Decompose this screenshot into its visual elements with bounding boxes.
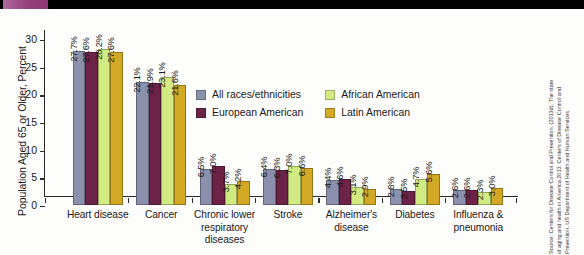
bar-value-label: 23.1%: [157, 62, 167, 87]
legend-label: Latin American: [341, 107, 410, 118]
y-tick-label: 30: [25, 33, 37, 45]
bar[interactable]: 27.6%: [85, 52, 98, 205]
bar[interactable]: 21.9%: [149, 83, 162, 204]
legend-swatch-icon: [196, 90, 206, 100]
bar-value-label: 7.0%: [284, 154, 294, 174]
legend-item[interactable]: African American: [325, 89, 420, 100]
bar-value-label: 2.9%: [360, 176, 370, 196]
bar[interactable]: 2.5%: [402, 191, 415, 205]
bar-value-label: 7.0%: [208, 154, 218, 174]
legend-swatch-icon: [325, 108, 335, 118]
legend-label: European American: [212, 107, 303, 118]
top-band-accent-block: [3, 0, 48, 9]
source-note-line: Source: Centers for Disease Control and …: [548, 64, 556, 254]
bar-value-label: 2.6%: [462, 178, 472, 198]
bar-value-label: 2.6%: [450, 178, 460, 198]
bar-value-label: 22.1%: [132, 68, 142, 93]
bar[interactable]: 3.0%: [491, 188, 504, 205]
y-tick-label: 25: [25, 61, 37, 73]
y-tick-mark: [40, 95, 45, 96]
bar-value-label: 27.6%: [106, 37, 116, 62]
legend-item[interactable]: European American: [196, 107, 303, 118]
bar-value-label: 27.7%: [69, 37, 79, 62]
source-note: Source: Centers for Disease Control and …: [548, 64, 571, 254]
x-tick-mark: [382, 198, 383, 203]
bar-value-label: 4.6%: [335, 167, 345, 187]
x-tick-mark: [516, 198, 517, 203]
y-tick-label: 5: [31, 171, 37, 183]
x-tick-mark: [192, 198, 193, 203]
x-tick-mark: [45, 198, 46, 203]
bar-group-bars: 6.4%6.3%7.0%6.6%: [263, 39, 313, 205]
bar-value-label: 28.2%: [94, 34, 104, 59]
bar-group-bars: 4.4%4.6%3.1%2.9%: [326, 39, 376, 205]
y-tick-mark: [40, 178, 45, 179]
bar-value-label: 2.3%: [475, 180, 485, 200]
bar-group-bars: 2.6%2.6%2.3%3.0%: [453, 39, 503, 205]
bar-value-label: 4.2%: [233, 169, 243, 189]
legend-item[interactable]: All races/ethnicities: [196, 89, 303, 100]
x-category-label-line: respiratory diseases: [181, 222, 267, 247]
x-tick-mark: [445, 198, 446, 203]
legend-label: African American: [341, 89, 420, 100]
bar-value-label: 6.4%: [259, 157, 269, 177]
bar-value-label: 3.7%: [221, 172, 231, 192]
legend-label: All races/ethnicities: [212, 89, 301, 100]
bar-value-label: 4.7%: [411, 166, 421, 186]
x-category-label-line: pneumonia: [435, 222, 521, 235]
bar-value-label: 21.6%: [170, 70, 180, 95]
plot-area: 051015202530 27.7%27.6%28.2%27.6%22.1%21…: [44, 30, 518, 206]
bar[interactable]: 21.6%: [174, 85, 187, 205]
y-tick-label: 15: [25, 116, 37, 128]
bar-group-bars: 27.7%27.6%28.2%27.6%: [73, 39, 123, 205]
bar[interactable]: 27.6%: [110, 52, 123, 205]
bar[interactable]: 4.7%: [415, 179, 428, 205]
y-axis-line: [44, 30, 45, 197]
bar-value-label: 3.0%: [487, 176, 497, 196]
bar[interactable]: 27.7%: [73, 51, 86, 204]
y-tick-label: 0: [31, 199, 37, 211]
bar[interactable]: 6.6%: [301, 168, 314, 205]
bar-group-bars: 6.5%7.0%3.7%4.2%: [200, 39, 250, 205]
x-tick-mark: [318, 198, 319, 203]
y-tick-label: 10: [25, 144, 37, 156]
y-tick-mark: [40, 123, 45, 124]
bar[interactable]: 22.1%: [136, 82, 149, 204]
x-tick-mark: [128, 198, 129, 203]
x-category-label-line: disease: [308, 222, 394, 235]
x-category-label: Influenza &pneumonia: [435, 209, 521, 234]
y-tick-mark: [40, 206, 45, 207]
bar-value-label: 4.4%: [323, 168, 333, 188]
bar-value-label: 6.5%: [196, 156, 206, 176]
y-tick-mark: [40, 68, 45, 69]
chart-figure: Population Aged 65 or Older, Percent 051…: [0, 9, 584, 255]
bar-value-label: 2.5%: [399, 179, 409, 199]
top-decorative-band: [0, 0, 584, 9]
bar[interactable]: 2.9%: [364, 189, 377, 205]
legend-item[interactable]: Latin American: [325, 107, 420, 118]
bar-value-label: 5.6%: [424, 161, 434, 181]
bar[interactable]: 5.6%: [427, 174, 440, 205]
bar-value-label: 6.3%: [272, 158, 282, 178]
bar-value-label: 2.8%: [386, 177, 396, 197]
bar-value-label: 27.6%: [81, 37, 91, 62]
legend-swatch-icon: [325, 90, 335, 100]
bar-value-label: 21.9%: [145, 69, 155, 94]
bar-value-label: 6.6%: [297, 156, 307, 176]
x-category-label-line: Influenza &: [435, 209, 521, 222]
x-tick-mark: [255, 198, 256, 203]
source-note-line: Prevention, US Department of Health and …: [564, 64, 572, 254]
bar-group-bars: 22.1%21.9%23.1%21.6%: [136, 39, 186, 205]
bar-value-label: 3.1%: [348, 175, 358, 195]
bar-group-bars: 2.8%2.5%4.7%5.6%: [390, 39, 440, 205]
source-note-line: of aging and health in America 2013. Cen…: [556, 64, 564, 254]
legend-swatch-icon: [196, 108, 206, 118]
bar[interactable]: 28.2%: [98, 49, 111, 205]
y-tick-mark: [40, 151, 45, 152]
y-tick-label: 20: [25, 88, 37, 100]
bar[interactable]: 23.1%: [161, 77, 174, 205]
y-tick-mark: [40, 40, 45, 41]
bar[interactable]: 4.2%: [237, 181, 250, 204]
chart-legend: All races/ethnicitiesAfrican AmericanEur…: [196, 89, 420, 118]
bar[interactable]: 6.3%: [276, 170, 289, 205]
